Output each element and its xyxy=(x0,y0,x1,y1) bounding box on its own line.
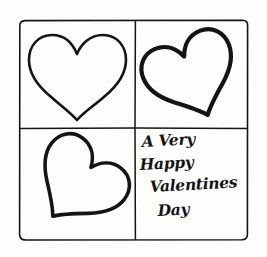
horizontal-divider xyxy=(20,128,247,129)
artwork-canvas: A Very Happy Valentines Day xyxy=(0,0,267,257)
greeting-line-4: Day xyxy=(156,199,191,220)
greeting-line-2: Happy xyxy=(138,152,195,174)
greeting-line-1: A Very xyxy=(139,129,196,151)
valentine-card-sketch: A Very Happy Valentines Day xyxy=(0,0,267,257)
